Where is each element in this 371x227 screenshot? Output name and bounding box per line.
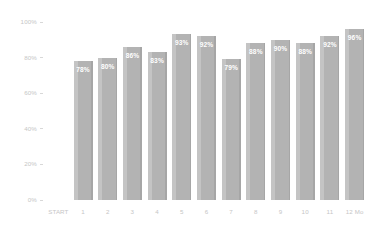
bar-value-label: 79%	[222, 64, 241, 71]
x-axis-tick: 12 Mo	[342, 205, 367, 217]
y-axis: 100% 80% 60% 40% 20% 0%	[0, 0, 46, 227]
bar-slot: 92%	[318, 0, 343, 200]
y-axis-tick-label: 60%	[24, 88, 37, 98]
x-axis-tick-label: 6	[205, 208, 209, 215]
bar-slot: 79%	[219, 0, 244, 200]
x-axis-tick: 10	[293, 205, 318, 217]
bar[interactable]: 80%	[98, 58, 117, 200]
bar-slot: 78%	[71, 0, 96, 200]
y-axis-tick: 40%	[24, 124, 46, 134]
bar[interactable]: 92%	[197, 36, 216, 200]
bar-slot: 88%	[244, 0, 269, 200]
x-axis-tick: 5	[169, 205, 194, 217]
y-axis-tick-mark	[40, 22, 43, 23]
x-axis-tick-label: 5	[180, 208, 184, 215]
bar-slot: 83%	[145, 0, 170, 200]
y-axis-tick: 100%	[21, 17, 46, 27]
y-axis-tick-mark	[40, 128, 43, 129]
x-axis-tick: START	[46, 205, 71, 217]
y-axis-tick-mark	[40, 164, 43, 165]
bar-slot: 80%	[95, 0, 120, 200]
y-axis-tick-label: 20%	[24, 159, 37, 169]
y-axis-tick-label: 100%	[21, 17, 37, 27]
x-axis-tick-label: START	[48, 208, 68, 215]
x-axis-tick-label: 1	[81, 208, 85, 215]
bar[interactable]: 83%	[148, 52, 167, 200]
x-axis-tick-label: 11	[326, 208, 333, 215]
y-axis-tick: 0%	[28, 195, 46, 205]
bar-slot-start	[46, 0, 71, 200]
bar-slot: 93%	[169, 0, 194, 200]
bar-value-label: 92%	[197, 41, 216, 48]
y-axis-tick-label: 40%	[24, 124, 37, 134]
bar-slot: 96%	[342, 0, 367, 200]
bar-slot: 86%	[120, 0, 145, 200]
x-axis-tick-label: 2	[106, 208, 110, 215]
x-axis-tick-label: 9	[279, 208, 283, 215]
bar-slot: 92%	[194, 0, 219, 200]
bar-value-label: 80%	[98, 63, 117, 70]
bar-value-label: 88%	[246, 48, 265, 55]
bar-series: 78% 80% 86% 83% 93%	[46, 0, 367, 200]
bar[interactable]: 86%	[123, 47, 142, 200]
x-axis-tick: 9	[268, 205, 293, 217]
y-axis-tick-label: 0%	[28, 195, 37, 205]
x-axis-tick: 3	[120, 205, 145, 217]
x-axis-tick-label: 8	[254, 208, 258, 215]
y-axis-tick-mark	[40, 93, 43, 94]
x-axis-tick: 8	[244, 205, 269, 217]
bar[interactable]: 88%	[296, 43, 315, 200]
y-axis-tick: 80%	[24, 53, 46, 63]
bar-value-label: 78%	[74, 66, 93, 73]
y-axis-tick: 60%	[24, 88, 46, 98]
bar-value-label: 86%	[123, 52, 142, 59]
x-axis-tick-label: 4	[155, 208, 159, 215]
y-axis-tick-label: 80%	[24, 53, 37, 63]
y-axis-tick-mark	[40, 200, 43, 201]
bar-value-label: 93%	[172, 39, 191, 46]
x-axis-tick-label: 7	[229, 208, 233, 215]
bar[interactable]: 78%	[74, 61, 93, 200]
bar[interactable]: 79%	[222, 59, 241, 200]
x-axis-tick: 11	[318, 205, 343, 217]
bar[interactable]: 92%	[320, 36, 339, 200]
bar-slot: 90%	[268, 0, 293, 200]
bar-value-label: 83%	[148, 57, 167, 64]
x-axis-tick-label: 10	[302, 208, 309, 215]
y-axis-tick-mark	[40, 57, 43, 58]
x-axis-tick: 7	[219, 205, 244, 217]
x-axis: START 1 2 3 4 5 6 7 8	[46, 205, 367, 217]
bar[interactable]: 90%	[271, 40, 290, 200]
bar[interactable]: 88%	[246, 43, 265, 200]
bar-value-label: 92%	[320, 41, 339, 48]
x-axis-tick: 1	[71, 205, 96, 217]
y-axis-tick: 20%	[24, 159, 46, 169]
x-axis-tick: 4	[145, 205, 170, 217]
x-axis-tick-label: 3	[131, 208, 135, 215]
bar-slot: 88%	[293, 0, 318, 200]
plot-area: 78% 80% 86% 83% 93%	[46, 0, 371, 227]
bar[interactable]: 96%	[345, 29, 364, 200]
x-axis-tick: 6	[194, 205, 219, 217]
bar-value-label: 90%	[271, 45, 290, 52]
bar-value-label: 96%	[345, 34, 364, 41]
x-axis-tick-label: 12 Mo	[346, 208, 364, 215]
bar[interactable]: 93%	[172, 34, 191, 200]
bar-chart: 100% 80% 60% 40% 20% 0%	[0, 0, 371, 227]
x-axis-tick: 2	[95, 205, 120, 217]
bar-value-label: 88%	[296, 48, 315, 55]
